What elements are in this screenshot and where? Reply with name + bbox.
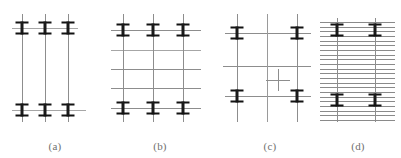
ibeam-web	[374, 94, 376, 107]
ibeam-web	[296, 27, 298, 40]
cross-marker-icon	[266, 69, 290, 91]
ibeam-web	[122, 102, 124, 115]
ibeam-connector-icon	[331, 94, 344, 107]
ibeam-connector-icon	[177, 24, 190, 37]
ibeam-connector-icon	[117, 24, 130, 37]
horizontal-rail	[320, 83, 395, 84]
ibeam-connector-icon	[147, 24, 160, 37]
horizontal-rail	[320, 73, 395, 74]
panel-d: (d)	[315, 0, 401, 158]
ibeam-connector-icon	[291, 27, 304, 40]
ibeam-web	[67, 104, 69, 117]
panel-c: (c)	[215, 0, 325, 158]
horizontal-rail	[111, 50, 201, 51]
ibeam-web	[21, 104, 23, 117]
panel-b-stage	[105, 0, 215, 130]
panel-a-caption: (a)	[0, 140, 110, 152]
panel-a-stage	[0, 0, 110, 130]
ibeam-connector-icon	[39, 22, 52, 35]
panel-b: (b)	[105, 0, 215, 158]
panel-a: (a)	[0, 0, 110, 158]
panel-d-caption: (d)	[315, 140, 401, 152]
ibeam-connector-icon	[331, 24, 344, 37]
horizontal-rail	[320, 59, 395, 60]
horizontal-rail	[320, 50, 395, 51]
horizontal-rail	[320, 120, 395, 121]
ibeam-web	[152, 102, 154, 115]
panel-b-caption: (b)	[105, 140, 215, 152]
ibeam-connector-icon	[147, 102, 160, 115]
ibeam-connector-icon	[62, 104, 75, 117]
ibeam-web	[21, 22, 23, 35]
ibeam-web	[336, 94, 338, 107]
ibeam-connector-icon	[16, 104, 29, 117]
ibeam-web	[44, 104, 46, 117]
ibeam-connector-icon	[16, 22, 29, 35]
ibeam-connector-icon	[39, 104, 52, 117]
ibeam-web	[44, 22, 46, 35]
ibeam-connector-icon	[62, 22, 75, 35]
ibeam-web	[152, 24, 154, 37]
cross-vertical	[278, 69, 279, 91]
horizontal-rail	[320, 64, 395, 65]
ibeam-connector-icon	[291, 90, 304, 103]
ibeam-web	[296, 90, 298, 103]
ibeam-web	[236, 90, 238, 103]
vertical-post	[267, 14, 268, 122]
ibeam-web	[374, 24, 376, 37]
figure-container: (a)(b)(c)(d)	[0, 0, 401, 158]
horizontal-rail	[320, 111, 395, 112]
horizontal-rail	[111, 88, 201, 89]
horizontal-rail	[320, 69, 395, 70]
horizontal-rail	[111, 69, 201, 70]
panel-c-stage	[215, 0, 325, 130]
ibeam-connector-icon	[231, 27, 244, 40]
horizontal-rail	[320, 87, 395, 88]
ibeam-connector-icon	[117, 102, 130, 115]
horizontal-rail	[320, 45, 395, 46]
ibeam-web	[182, 24, 184, 37]
ibeam-web	[236, 27, 238, 40]
ibeam-connector-icon	[177, 102, 190, 115]
horizontal-rail	[320, 41, 395, 42]
ibeam-connector-icon	[369, 94, 382, 107]
ibeam-web	[336, 24, 338, 37]
horizontal-rail	[320, 115, 395, 116]
horizontal-rail	[320, 55, 395, 56]
ibeam-connector-icon	[369, 24, 382, 37]
ibeam-web	[182, 102, 184, 115]
ibeam-connector-icon	[231, 90, 244, 103]
panel-d-stage	[315, 0, 401, 130]
ibeam-web	[122, 24, 124, 37]
ibeam-web	[67, 22, 69, 35]
horizontal-rail	[320, 78, 395, 79]
panel-c-caption: (c)	[215, 140, 325, 152]
